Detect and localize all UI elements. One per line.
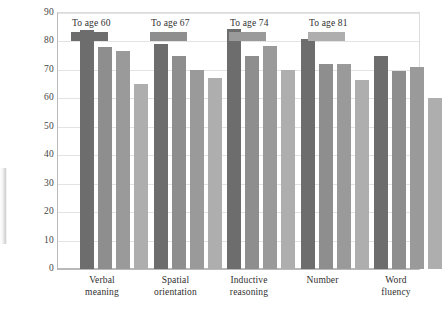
bar-2-4 [208, 78, 222, 269]
y-tick-label-40: 40 [30, 150, 54, 160]
x-axis-label-3: Inductivereasoning [214, 275, 284, 298]
bar-1-4 [134, 84, 148, 269]
y-tick-label-50: 50 [30, 122, 54, 132]
bar-3-3 [263, 46, 277, 269]
chart-legend: To age 60To age 67To age 74To age 81 [71, 18, 387, 52]
x-axis-label-3-line1: Inductive [214, 275, 284, 287]
legend-label-4: To age 81 [308, 18, 348, 29]
legend-swatch-4 [308, 32, 345, 41]
legend-swatch-3 [229, 32, 266, 41]
y-tick-label-0: 0 [30, 264, 54, 274]
bar-5-4 [428, 98, 442, 269]
x-axis-label-1-line2: meaning [67, 287, 137, 299]
bar-2-1 [154, 44, 168, 269]
legend-label-2: To age 67 [150, 18, 190, 29]
legend-item-2: To age 67 [150, 18, 229, 41]
x-axis-label-2-line1: Spatial [141, 275, 211, 287]
x-axis-label-4-line1: Number [288, 275, 358, 287]
legend-item-3: To age 74 [229, 18, 308, 41]
legend-label-3: To age 74 [229, 18, 269, 29]
y-tick-label-30: 30 [30, 179, 54, 189]
y-tick-label-10: 10 [30, 236, 54, 246]
x-axis-label-4: Number [288, 275, 358, 287]
bar-3-1 [227, 29, 241, 269]
y-axis-tick-labels: 0102030405060708090 [24, 13, 54, 269]
y-tick-label-70: 70 [30, 65, 54, 75]
x-axis-category-labels: VerbalmeaningSpatialorientationInductive… [58, 275, 419, 315]
y-tick-label-80: 80 [30, 36, 54, 46]
legend-item-4: To age 81 [308, 18, 387, 41]
bar-2-3 [190, 70, 204, 269]
bar-4-3 [337, 64, 351, 269]
bar-4-1 [301, 39, 315, 269]
plot-area: To age 60To age 67To age 74To age 81 [58, 13, 419, 269]
x-axis-label-5-line1: Word [361, 275, 431, 287]
bar-4-2 [319, 64, 333, 269]
bar-3-4 [281, 70, 295, 269]
x-axis-label-3-line2: reasoning [214, 287, 284, 299]
bar-3-2 [245, 56, 259, 269]
bar-1-3 [116, 51, 130, 269]
legend-item-1: To age 60 [71, 18, 150, 41]
legend-label-1: To age 60 [71, 18, 111, 29]
x-axis-label-5: Wordfluency [361, 275, 431, 298]
x-axis-label-1: Verbalmeaning [67, 275, 137, 298]
x-axis-label-1-line1: Verbal [67, 275, 137, 287]
x-axis-label-5-line2: fluency [361, 287, 431, 299]
legend-swatch-1 [71, 32, 108, 41]
bar-1-1 [80, 30, 94, 269]
bar-2-2 [172, 56, 186, 269]
bar-5-2 [392, 71, 406, 269]
legend-swatch-2 [150, 32, 187, 41]
y-tick-label-90: 90 [30, 8, 54, 18]
bar-5-3 [410, 67, 424, 269]
y-tick-label-60: 60 [30, 93, 54, 103]
bar-5-1 [374, 56, 388, 269]
x-axis-label-2-line2: orientation [141, 287, 211, 299]
x-axis-label-2: Spatialorientation [141, 275, 211, 298]
bar-4-4 [355, 80, 369, 269]
bar-1-2 [98, 47, 112, 269]
y-tick-label-20: 20 [30, 207, 54, 217]
